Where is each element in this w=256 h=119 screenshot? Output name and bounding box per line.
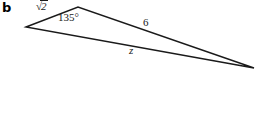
side-length-label-6: 6	[143, 17, 149, 28]
part-label: b	[2, 1, 11, 14]
side-length-label-z: z	[129, 45, 133, 56]
side-length-label-sqrt2: √2	[36, 0, 48, 12]
angle-measure-label: 135°	[58, 12, 79, 23]
radicand-value: 2	[40, 0, 48, 12]
triangle-figure: b √2 135° 6 z	[0, 0, 256, 119]
triangle-drawing	[0, 0, 256, 119]
